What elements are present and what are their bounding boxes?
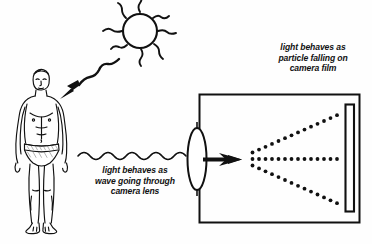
diagram-svg	[0, 0, 372, 244]
person-figure	[15, 69, 67, 233]
light-wave-line	[78, 153, 186, 160]
sun-to-person-arrow	[60, 59, 119, 99]
caption-wave: light behaves as wave going through came…	[60, 165, 210, 197]
particle-ray-upper	[251, 113, 339, 154]
particle-ray-lower	[251, 164, 339, 206]
camera-film	[346, 105, 355, 212]
sun-icon	[103, 0, 176, 66]
particle-ray-middle	[251, 157, 339, 161]
caption-particle: light behaves as particle falling on cam…	[257, 42, 369, 74]
diagram-canvas: light behaves as particle falling on cam…	[0, 0, 372, 244]
particle-rays	[251, 113, 339, 205]
